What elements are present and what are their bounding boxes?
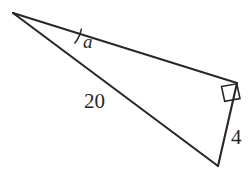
angle-label-a: a <box>83 32 93 51</box>
triangle-edge-hypotenuse <box>13 13 218 166</box>
right-angle-marker-icon <box>222 84 241 102</box>
geometry-figure: a 20 4 <box>0 0 248 174</box>
side-length-label-hypotenuse: 20 <box>84 91 105 112</box>
side-length-label-opposite: 4 <box>231 127 242 148</box>
triangle-edge-top <box>13 13 237 83</box>
triangle-svg <box>0 0 248 174</box>
angle-arc <box>75 29 82 44</box>
